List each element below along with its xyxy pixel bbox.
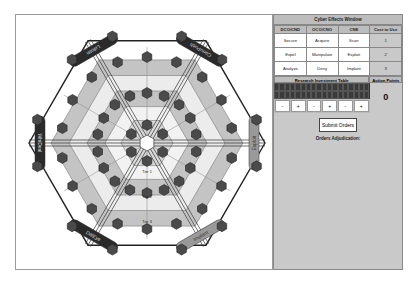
board-node[interactable]: [142, 156, 152, 167]
effect-implant[interactable]: Implant: [338, 62, 370, 76]
board-node[interactable]: [68, 95, 78, 106]
board-node[interactable]: [108, 244, 118, 255]
action-points-value: 0: [370, 83, 403, 113]
effect-acquire[interactable]: Acquire: [306, 34, 338, 48]
board-node[interactable]: [110, 99, 120, 110]
board-node[interactable]: [58, 123, 68, 134]
board-node[interactable]: [192, 146, 202, 157]
svg-text:Exploit: Exploit: [251, 135, 257, 151]
effects-table: DCO/CND OCO/CNO CNE Cost to Use Secure A…: [274, 25, 402, 76]
board-node[interactable]: [158, 147, 168, 158]
board-node[interactable]: [127, 147, 137, 158]
board-node[interactable]: [113, 57, 123, 68]
decrease-button[interactable]: -: [307, 100, 322, 112]
orders-adjudication-label: Orders Adjudication:: [274, 136, 402, 141]
table-row: Secure Acquire Scan 1: [275, 34, 402, 48]
effect-expel[interactable]: Expel: [275, 48, 307, 62]
increase-button[interactable]: +: [354, 100, 369, 112]
research-table-title: Research Investment Table: [274, 76, 369, 83]
cost-value: 3: [370, 62, 402, 76]
board-node[interactable]: [217, 54, 227, 65]
col-header: DCO/CND: [275, 26, 307, 34]
board-node[interactable]: [252, 161, 261, 172]
board-node[interactable]: [198, 203, 208, 214]
board-node[interactable]: [252, 114, 261, 125]
board-node[interactable]: [99, 163, 109, 174]
effect-exploit[interactable]: Exploit: [338, 48, 370, 62]
board-node[interactable]: [108, 31, 118, 42]
submit-orders-button[interactable]: Submit Orders: [319, 118, 357, 132]
col-header: CNE: [338, 26, 370, 34]
board-node[interactable]: [67, 221, 77, 232]
board-node[interactable]: [186, 113, 196, 124]
cost-value: 2: [370, 48, 402, 62]
board-node[interactable]: [125, 91, 135, 102]
board-node[interactable]: [67, 54, 77, 65]
board-node[interactable]: [198, 72, 208, 83]
tier-label: Tier 2: [142, 195, 152, 199]
board-node[interactable]: [227, 152, 237, 163]
panel-title: Cyber Effects Window: [274, 15, 402, 25]
research-investment-grid: [274, 83, 370, 99]
board-node[interactable]: [58, 152, 68, 163]
board-node[interactable]: [186, 163, 196, 174]
board-node[interactable]: [142, 120, 152, 131]
hex-game-board[interactable]: CorruPushExploitImplantDelEyeWhiDealLofo…: [15, 14, 273, 270]
col-header: OCO/CNO: [306, 26, 338, 34]
board-node[interactable]: [142, 88, 152, 99]
board-node[interactable]: [93, 129, 103, 140]
board-node[interactable]: [99, 113, 109, 124]
board-node[interactable]: [68, 181, 78, 192]
increase-button[interactable]: +: [291, 100, 306, 112]
svg-text:WhiDeal: WhiDeal: [37, 134, 43, 153]
board-node[interactable]: [127, 129, 137, 140]
board-node[interactable]: [142, 224, 152, 235]
decrease-button[interactable]: -: [275, 100, 290, 112]
board-node[interactable]: [33, 161, 43, 172]
board-node[interactable]: [159, 91, 169, 102]
board-node[interactable]: [227, 123, 237, 134]
effect-manipulate[interactable]: Manipulate: [306, 48, 338, 62]
effect-secure[interactable]: Secure: [275, 34, 307, 48]
tier-label: Tier 3: [142, 220, 152, 224]
effect-analyze[interactable]: Analyze: [275, 62, 307, 76]
board-node[interactable]: [217, 95, 227, 106]
cyber-effects-panel: Cyber Effects Window DCO/CND OCO/CNO CNE…: [273, 14, 403, 270]
board-node[interactable]: [110, 176, 120, 187]
decrease-button[interactable]: -: [338, 100, 353, 112]
board-node[interactable]: [159, 185, 169, 196]
board-node[interactable]: [125, 185, 135, 196]
effect-scan[interactable]: Scan: [338, 34, 370, 48]
board-node[interactable]: [177, 31, 187, 42]
board-node[interactable]: [174, 99, 184, 110]
board-node[interactable]: [172, 57, 182, 68]
board-node[interactable]: [33, 114, 43, 125]
table-row: Expel Manipulate Exploit 2: [275, 48, 402, 62]
increase-button[interactable]: +: [322, 100, 337, 112]
board-node[interactable]: [217, 181, 227, 192]
table-row: Analyze Deny Implant 3: [275, 62, 402, 76]
board-node[interactable]: [192, 129, 202, 140]
board-node[interactable]: [172, 218, 182, 229]
board-node[interactable]: [93, 146, 103, 157]
board-node[interactable]: [142, 52, 152, 63]
board-node[interactable]: [174, 176, 184, 187]
tier-label: Tier 1: [142, 170, 152, 174]
action-points-label: Action Points: [369, 76, 402, 83]
board-node[interactable]: [217, 221, 227, 232]
board-node[interactable]: [158, 129, 168, 140]
cost-value: 1: [370, 34, 402, 48]
board-node[interactable]: [113, 218, 123, 229]
col-header: Cost to Use: [370, 26, 402, 34]
board-node[interactable]: [87, 72, 97, 83]
effect-deny[interactable]: Deny: [306, 62, 338, 76]
board-node[interactable]: [87, 203, 97, 214]
board-node[interactable]: [177, 244, 187, 255]
